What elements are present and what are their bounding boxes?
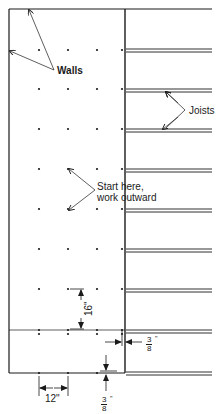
- grid-dot: [121, 49, 123, 51]
- grid-dot: [67, 329, 69, 331]
- grid-dot: [96, 168, 98, 170]
- dimension-16in: [70, 289, 84, 329]
- grid-dot: [67, 288, 69, 290]
- grid-dot: [96, 248, 98, 250]
- joists-callout-arrows: [163, 92, 185, 129]
- grid-dot: [96, 329, 98, 331]
- side-gap-fraction: 3 8 ": [146, 336, 152, 353]
- grid-dot: [96, 288, 98, 290]
- bottom-gap-denominator: 8: [101, 405, 107, 413]
- grid-dot: [121, 208, 123, 210]
- grid-dot: [67, 88, 69, 90]
- start-here-label-line2: work outward: [97, 192, 156, 203]
- grid-dot: [67, 49, 69, 51]
- grid-dot: [121, 88, 123, 90]
- grid-dot: [121, 168, 123, 170]
- start-here-arrows: [69, 169, 95, 210]
- grid-dot: [38, 248, 40, 250]
- joists-label: Joists: [189, 105, 215, 116]
- grid-dot: [38, 128, 40, 130]
- grid-dot: [96, 49, 98, 51]
- grid-dot: [121, 288, 123, 290]
- bottom-gap-inch-mark: ": [110, 395, 113, 403]
- grid-dot: [67, 128, 69, 130]
- grid-dot: [38, 168, 40, 170]
- spacing-16in-label: 16": [83, 301, 94, 316]
- side-gap-inch-mark: ": [155, 335, 158, 343]
- grid-dot: [38, 88, 40, 90]
- joists: [126, 49, 212, 375]
- grid-dot: [96, 333, 98, 335]
- grid-dot: [67, 168, 69, 170]
- grid-dot: [67, 333, 69, 335]
- grid-dot: [38, 49, 40, 51]
- grid-dot: [121, 128, 123, 130]
- grid-dot: [96, 128, 98, 130]
- grid-dot: [96, 88, 98, 90]
- start-here-label-line1: Start here,: [97, 181, 144, 192]
- walls-callout-arrows: [10, 10, 54, 70]
- side-gap-denominator: 8: [146, 345, 152, 353]
- grid-dot: [38, 208, 40, 210]
- grid-dot: [121, 248, 123, 250]
- spacing-12in-label: 12": [45, 393, 60, 404]
- grid-dot: [38, 329, 40, 331]
- bottom-gap-fraction: 3 8 ": [101, 396, 107, 413]
- grid-dot: [67, 248, 69, 250]
- diagram-canvas: [0, 0, 218, 414]
- grid-dot: [67, 208, 69, 210]
- ceiling-tile-layout-diagram: Walls Joists Start here, work outward 16…: [0, 0, 218, 414]
- dimension-side-gap: [105, 330, 142, 346]
- grid-dot: [38, 288, 40, 290]
- grid-dot: [38, 333, 40, 335]
- walls-label: Walls: [57, 65, 83, 76]
- grid-dot: [96, 208, 98, 210]
